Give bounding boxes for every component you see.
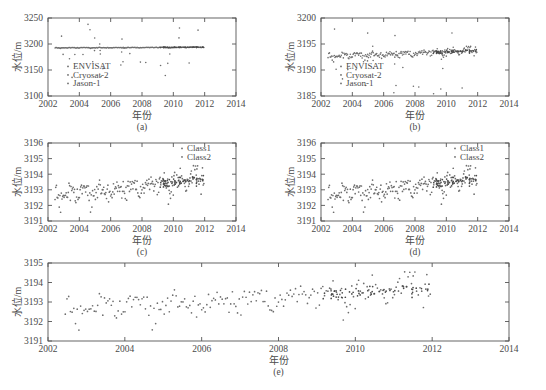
y-axis-title-e: 水位/m [11, 287, 23, 318]
x-tick-label-e: 2008 [269, 344, 288, 354]
x-tick-label-e: 2004 [115, 344, 134, 354]
x-tick-label-e: 2006 [192, 344, 211, 354]
panel-e: 2002200420062008201020122014319131923193… [0, 0, 546, 390]
x-axis-title-e: 年份 [269, 354, 289, 366]
x-tick-label-e: 2010 [346, 344, 365, 354]
y-tick-label-e: 3193 [24, 297, 43, 307]
scatter-points-e [64, 271, 431, 331]
y-tick-label-e: 3191 [24, 336, 43, 346]
figure-container: 2002200420062008201020122014310031503200… [0, 0, 546, 390]
y-tick-label-e: 3194 [24, 278, 43, 288]
y-tick-label-e: 3195 [24, 258, 43, 268]
x-tick-label-e: 2012 [423, 344, 442, 354]
x-tick-label-e: 2014 [500, 344, 519, 354]
panel-caption-e: (e) [273, 367, 284, 378]
y-tick-label-e: 3192 [24, 317, 43, 327]
